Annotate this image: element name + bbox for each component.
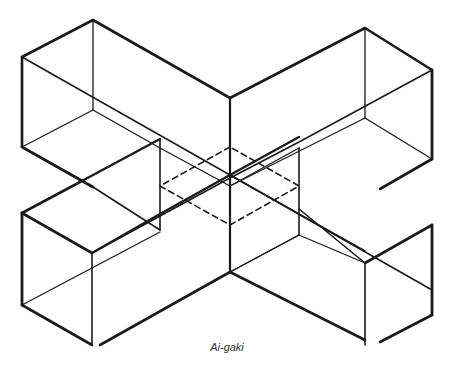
beam-b <box>22 28 432 345</box>
beam-a <box>22 20 432 345</box>
figure-caption: Ai-gaki <box>0 341 454 353</box>
ai-gaki-diagram <box>0 0 454 370</box>
